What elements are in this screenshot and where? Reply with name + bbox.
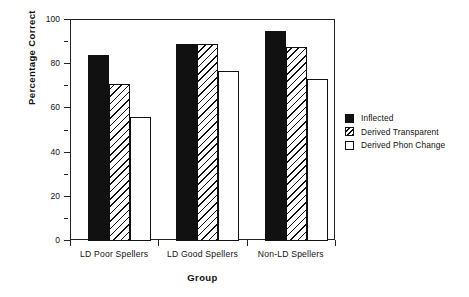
y-tick-minor-70: [64, 85, 68, 86]
legend-label: Derived Phon Change: [361, 140, 445, 150]
legend-item: Inflected: [345, 112, 469, 125]
y-tick-minor-50: [64, 130, 68, 131]
legend-swatch-open-icon: [345, 141, 354, 150]
y-tick-label-80: 80: [36, 58, 60, 68]
legend-item: Derived Phon Change: [345, 139, 469, 152]
bar: [130, 117, 151, 241]
legend: InflectedDerived TransparentDerived Phon…: [345, 112, 469, 153]
y-axis-title: Percentage Correct: [26, 0, 37, 133]
legend-swatch-hatched-icon: [345, 127, 354, 136]
bar: [265, 31, 286, 241]
y-tick-label-100: 100: [36, 14, 60, 24]
bar: [176, 44, 197, 241]
x-tick-0: [70, 240, 71, 246]
y-tick-label-20: 20: [36, 191, 60, 201]
x-tick-2: [247, 240, 248, 246]
y-tick-minor-90: [64, 41, 68, 42]
bar: [307, 79, 328, 241]
legend-label: Derived Transparent: [361, 127, 439, 137]
y-tick-label-60: 60: [36, 102, 60, 112]
bar: [286, 47, 307, 241]
x-tick-1: [158, 240, 159, 246]
bar: [88, 55, 109, 241]
x-axis-title: Group: [0, 272, 405, 283]
bar: [218, 71, 239, 241]
x-category-label: Non-LD Spellers: [241, 249, 341, 259]
legend-swatch-filled-icon: [345, 114, 354, 123]
bar-chart-figure: Percentage Correct 020406080100 LD Poor …: [0, 0, 469, 297]
y-tick-minor-10: [64, 218, 68, 219]
x-tick-3: [335, 240, 336, 246]
y-tick-minor-30: [64, 174, 68, 175]
legend-label: Inflected: [361, 113, 394, 123]
plot-area: [70, 19, 335, 240]
bar: [197, 44, 218, 241]
x-category-label: LD Poor Spellers: [64, 249, 164, 259]
legend-item: Derived Transparent: [345, 126, 469, 139]
bar: [109, 84, 130, 241]
x-category-label: LD Good Spellers: [153, 249, 253, 259]
y-tick-label-40: 40: [36, 147, 60, 157]
y-tick-label-0: 0: [36, 235, 60, 245]
